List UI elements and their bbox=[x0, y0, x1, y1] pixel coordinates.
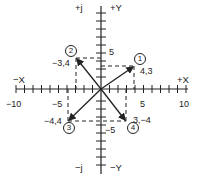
x-tick-neg5: −5 bbox=[52, 99, 62, 109]
x-tick-neg10: −10 bbox=[6, 99, 21, 109]
vector-1-arrow bbox=[101, 67, 133, 89]
neg-x-label: −X bbox=[13, 75, 25, 85]
vector-2-label: −3,4 bbox=[52, 58, 70, 68]
vector-4-label: 3,−4 bbox=[133, 115, 151, 125]
vector-2-arrow bbox=[77, 59, 101, 89]
pos-j-label: +j bbox=[75, 3, 83, 13]
vector-1-label: 4,3 bbox=[140, 66, 153, 76]
x-tick-10: 10 bbox=[179, 99, 189, 109]
vector-1-marker: 1 bbox=[134, 53, 146, 65]
vector-3-marker: 3 bbox=[63, 122, 75, 134]
neg-j-label: −j bbox=[75, 163, 83, 173]
vector-4-arrow bbox=[101, 89, 125, 120]
x-tick-5: 5 bbox=[140, 99, 145, 109]
axes-and-vectors-graphic bbox=[0, 0, 198, 178]
vector-3-arrow bbox=[69, 89, 101, 120]
pos-y-label: +Y bbox=[110, 3, 122, 13]
vector-2-marker: 2 bbox=[65, 45, 77, 57]
neg-y-label: −Y bbox=[110, 163, 122, 173]
vector-3-label: −4,4 bbox=[44, 116, 62, 126]
y-tick-5: 5 bbox=[109, 47, 114, 57]
pos-x-label: +X bbox=[177, 75, 189, 85]
y-tick-neg5: −5 bbox=[105, 125, 115, 135]
vector-diagram: +j +Y −j −Y −X +X −10 −5 5 10 5 −5 2 −3,… bbox=[0, 0, 198, 178]
